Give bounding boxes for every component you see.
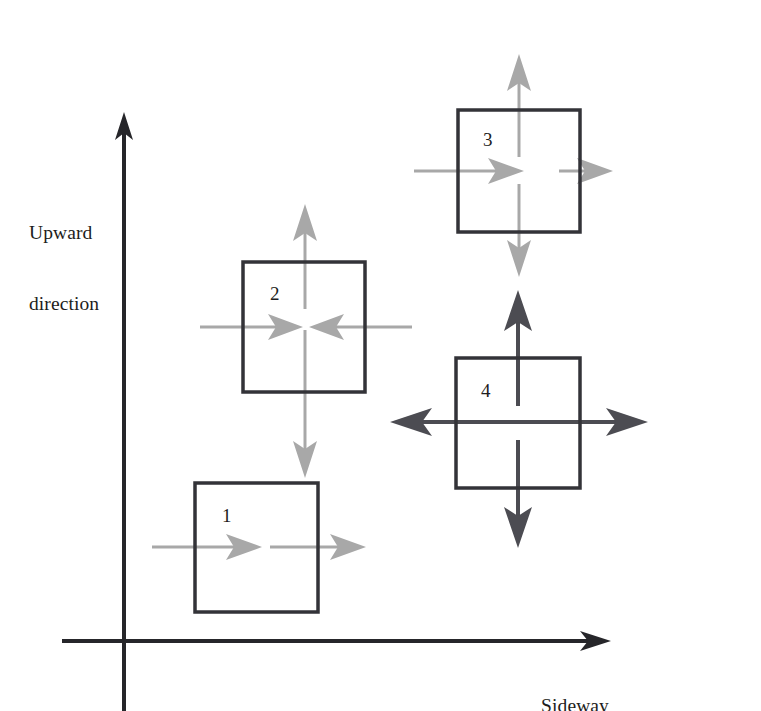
axis-group (62, 112, 611, 711)
box-1-number: 1 (222, 505, 232, 526)
arrows-box-1 (152, 534, 366, 560)
arrows-box-4 (390, 290, 648, 548)
diagram-canvas: 1 2 3 4 (0, 0, 761, 711)
box-group-3 (414, 54, 613, 277)
arrows-box-2 (200, 204, 412, 478)
box-group-1 (152, 483, 366, 612)
figure-root: 1 2 3 4 Upward direction Sideway directi… (0, 0, 761, 711)
arrows-box-3 (414, 54, 613, 277)
x-axis-label-line1: Sideway (540, 694, 610, 711)
y-axis-label: Upward direction (29, 173, 99, 363)
box-4-number: 4 (481, 380, 491, 401)
y-axis-label-line2: direction (29, 292, 99, 316)
x-axis-label: Sideway direction (540, 646, 610, 711)
box-group-2 (200, 204, 412, 478)
box-3-number: 3 (483, 129, 493, 150)
box-2-number: 2 (270, 283, 280, 304)
box-group-4 (390, 290, 648, 548)
y-axis-label-line1: Upward (29, 221, 99, 245)
